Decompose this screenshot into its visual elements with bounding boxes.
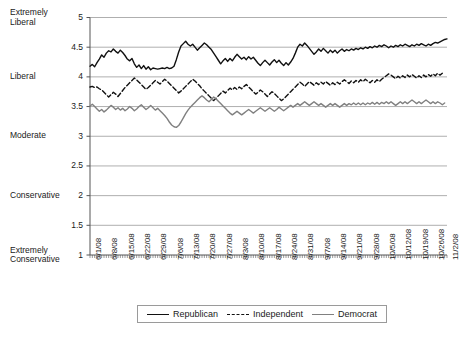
- x-tick-label: 6/1/08: [94, 238, 103, 260]
- legend-label: Republican: [173, 309, 218, 319]
- x-tick-label: 10/5/08: [388, 233, 397, 260]
- x-tick-label: 9/7/08: [323, 238, 332, 260]
- x-tick-label: 11/2/08: [451, 234, 460, 260]
- y-category-label: Conservative: [10, 191, 60, 201]
- y-category-label: Liberal: [10, 72, 36, 82]
- legend-swatch-icon: [312, 314, 334, 315]
- x-tick-label: 7/27/08: [225, 233, 234, 260]
- y-tick-label: 2: [61, 190, 83, 200]
- y-tick-label: 3.5: [61, 101, 83, 111]
- x-tick-label: 6/8/08: [110, 238, 119, 260]
- y-tick-label: 1: [61, 250, 83, 260]
- y-tick-label: 5: [61, 12, 83, 22]
- x-tick-label: 9/21/08: [355, 233, 364, 260]
- legend-item-independent[interactable]: Independent: [227, 309, 303, 319]
- y-tick-label: 2.5: [61, 160, 83, 170]
- y-tick-label: 1.5: [61, 220, 83, 230]
- legend-swatch-icon: [227, 314, 249, 315]
- x-tick-label: 6/29/08: [159, 233, 168, 260]
- y-category-label: Extremely Conservative: [10, 246, 60, 265]
- series-line-republican: [90, 39, 447, 70]
- series-line-independent: [90, 73, 442, 100]
- x-tick-label: 7/6/08: [176, 238, 185, 260]
- x-tick-label: 8/3/08: [241, 238, 250, 260]
- legend-label: Democrat: [338, 309, 377, 319]
- y-tick-label: 4: [61, 71, 83, 81]
- legend-label: Independent: [253, 309, 303, 319]
- x-tick-label: 8/10/08: [257, 233, 266, 260]
- y-category-label: Extremely Liberal: [10, 8, 48, 27]
- legend-swatch-icon: [147, 314, 169, 315]
- x-tick-label: 9/28/08: [372, 233, 381, 260]
- x-tick-label: 9/14/08: [339, 233, 348, 260]
- y-tick-label: 3: [61, 131, 83, 141]
- x-tick-label: 8/17/08: [274, 233, 283, 260]
- x-tick-label: 6/22/08: [143, 233, 152, 260]
- x-tick-label: 10/26/08: [437, 229, 446, 260]
- legend-item-democrat[interactable]: Democrat: [312, 309, 377, 319]
- x-tick-label: 7/13/08: [192, 233, 201, 260]
- x-tick-label: 8/31/08: [306, 233, 315, 260]
- x-tick-label: 7/20/08: [208, 233, 217, 260]
- series-line-democrat: [90, 96, 445, 127]
- x-tick-label: 10/12/08: [404, 229, 413, 260]
- legend-item-republican[interactable]: Republican: [147, 309, 218, 319]
- y-category-label: Moderate: [10, 131, 46, 141]
- x-tick-label: 6/15/08: [127, 233, 136, 260]
- x-tick-label: 10/19/08: [421, 229, 430, 260]
- x-tick-label: 8/24/08: [290, 233, 299, 260]
- chart-legend: RepublicanIndependentDemocrat: [137, 305, 387, 323]
- y-tick-label: 4.5: [61, 42, 83, 52]
